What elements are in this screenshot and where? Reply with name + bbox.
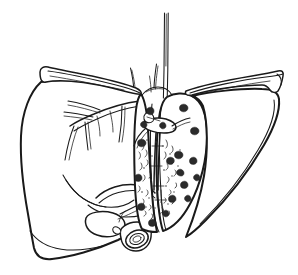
- liver-illustration-root: Liver liver-anatomical-line-drawing: [0, 0, 298, 275]
- liver-diagram: Liver: [0, 0, 298, 275]
